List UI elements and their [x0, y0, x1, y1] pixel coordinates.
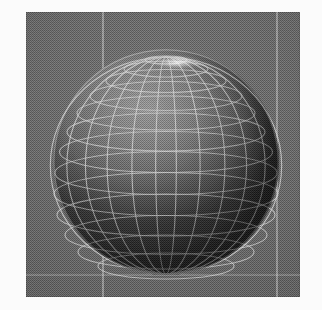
render-frame — [0, 0, 322, 310]
wireframe-sphere[interactable] — [53, 49, 279, 275]
render-viewport[interactable] — [26, 12, 300, 297]
sphere-wireframe-lines — [53, 49, 279, 275]
